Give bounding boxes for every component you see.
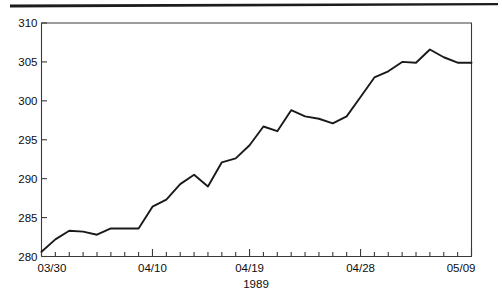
- y-axis-tick-labels: 280285290295300305310: [18, 17, 37, 263]
- x-tick-label: 04/28: [346, 262, 375, 274]
- y-tick-label: 280: [18, 251, 37, 263]
- plot-frame: [42, 23, 472, 257]
- y-tick-label: 305: [18, 56, 37, 68]
- y-tick-label: 290: [18, 173, 37, 185]
- x-tick-label: 04/19: [235, 262, 264, 274]
- x-axis-tick-labels: 03/3004/1004/1904/2805/09: [38, 262, 476, 274]
- chart-figure: 280285290295300305310 03/3004/1004/1904/…: [0, 0, 502, 298]
- data-series-group: [42, 49, 472, 251]
- series-line-index: [42, 49, 472, 251]
- y-tick-label: 310: [18, 17, 37, 29]
- y-tick-label: 300: [18, 95, 37, 107]
- y-tick-label: 295: [18, 134, 37, 146]
- x-tick-label: 03/30: [38, 262, 67, 274]
- plot-area-container: 280285290295300305310 03/3004/1004/1904/…: [0, 0, 502, 298]
- x-axis-title: 1989: [243, 278, 269, 290]
- line-chart-svg: 280285290295300305310 03/3004/1004/1904/…: [0, 0, 502, 298]
- x-tick-label: 04/10: [138, 262, 167, 274]
- x-axis-tick-marks: [42, 249, 472, 257]
- y-tick-label: 285: [18, 212, 37, 224]
- y-axis-tick-marks: [42, 23, 48, 257]
- x-tick-label: 05/09: [447, 262, 476, 274]
